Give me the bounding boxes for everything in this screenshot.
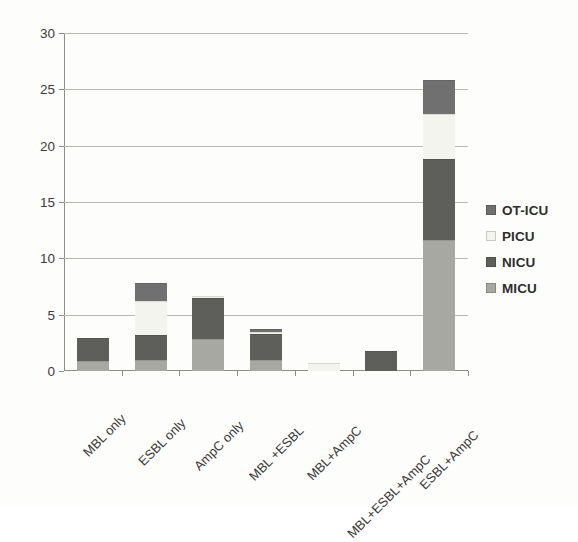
y-tick-label: 10 xyxy=(40,251,55,266)
legend-label: MICU xyxy=(502,281,537,296)
y-tick-label: 0 xyxy=(47,364,55,379)
bar-segment[interactable] xyxy=(365,351,397,371)
bar-segment[interactable] xyxy=(192,339,224,371)
plot-area: 051015202530 xyxy=(64,33,468,371)
y-tick-label: 15 xyxy=(40,195,55,210)
legend-item-picu[interactable]: PICU xyxy=(486,224,572,248)
bar-segment[interactable] xyxy=(308,363,340,371)
x-axis-labels: MBL onlyESBL onlyAmpC onlyMBL +ESBLMBL+A… xyxy=(64,374,468,474)
y-tick-label: 5 xyxy=(47,307,55,322)
bar-segment[interactable] xyxy=(77,361,109,371)
bar-stack[interactable] xyxy=(365,351,397,371)
bar-segment[interactable] xyxy=(135,301,167,335)
x-tick-label: MBL+AmpC xyxy=(359,378,419,438)
legend: OT-ICUPICUNICUMICU xyxy=(486,198,572,302)
y-tick-label: 30 xyxy=(40,26,55,41)
legend-item-ot-icu[interactable]: OT-ICU xyxy=(486,198,572,222)
bar-segment[interactable] xyxy=(250,360,282,371)
bar-segment[interactable] xyxy=(192,298,224,340)
y-tick-label: 25 xyxy=(40,82,55,97)
bar-segment[interactable] xyxy=(250,334,282,360)
bar-segment[interactable] xyxy=(135,360,167,371)
bar-segment[interactable] xyxy=(423,114,455,159)
y-tick-label: 20 xyxy=(40,138,55,153)
bar-stack[interactable] xyxy=(250,329,282,371)
bar-stack[interactable] xyxy=(77,338,109,371)
legend-label: OT-ICU xyxy=(502,203,548,218)
x-tick-label: AmpC only xyxy=(241,378,297,434)
bar-segment[interactable] xyxy=(423,159,455,240)
bar-segment[interactable] xyxy=(135,283,167,301)
x-tick-label: MBL only xyxy=(123,378,172,427)
bar-segment[interactable] xyxy=(423,80,455,114)
legend-label: PICU xyxy=(502,229,535,244)
bars-layer xyxy=(64,33,468,371)
x-tick-label-text: MBL +ESBL xyxy=(246,423,307,484)
x-tick-label: ESBL only xyxy=(183,378,236,431)
bar-stack[interactable] xyxy=(135,283,167,371)
bar-stack[interactable] xyxy=(423,80,455,371)
bar-stack[interactable] xyxy=(308,363,340,371)
legend-item-micu[interactable]: MICU xyxy=(486,276,572,300)
legend-swatch-icon xyxy=(486,231,496,241)
x-tick-label-text: AmpC only xyxy=(191,418,247,474)
legend-swatch-icon xyxy=(486,257,496,267)
x-tick-label-text: MBL only xyxy=(80,411,129,460)
legend-label: NICU xyxy=(502,255,535,270)
legend-item-nicu[interactable]: NICU xyxy=(486,250,572,274)
bar-segment[interactable] xyxy=(423,240,455,371)
legend-swatch-icon xyxy=(486,283,496,293)
x-tick-label-text: MBL+ESBL+AmpC xyxy=(345,452,434,541)
y-tick-mark xyxy=(59,371,64,372)
x-tick-mark xyxy=(468,371,469,376)
legend-swatch-icon xyxy=(486,205,496,215)
bar-stack[interactable] xyxy=(192,296,224,371)
bar-segment[interactable] xyxy=(77,338,109,361)
x-tick-label-text: ESBL only xyxy=(135,416,188,469)
bar-segment[interactable] xyxy=(135,335,167,360)
